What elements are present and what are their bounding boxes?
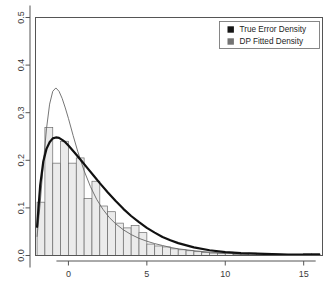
histogram-bar — [76, 158, 84, 256]
histogram-bar — [139, 233, 147, 256]
y-axis-tick-label: 0.2 — [16, 154, 26, 167]
histogram-bar — [170, 249, 178, 256]
histogram-bar — [155, 246, 163, 256]
legend-swatch-icon — [228, 26, 234, 32]
y-axis-tick-label: 0.0 — [16, 249, 26, 262]
x-axis-tick-label: 10 — [220, 269, 230, 279]
histogram-bar — [163, 247, 171, 256]
histogram-bar — [84, 198, 92, 255]
legend-item-label: DP Fitted Density — [240, 37, 304, 46]
x-axis: 051015 — [56, 261, 315, 279]
chart-legend: True Error DensityDP Fitted Density — [220, 22, 320, 49]
histogram-bar — [186, 251, 194, 256]
y-axis-tick-label: 0.3 — [16, 106, 26, 119]
histogram-bar — [115, 223, 123, 255]
histogram-bar — [53, 163, 61, 255]
histogram-bar — [194, 252, 202, 256]
x-axis-tick-label: 0 — [66, 269, 71, 279]
histogram-bar — [61, 141, 69, 255]
y-axis: 0.00.10.20.30.40.5 — [16, 6, 30, 268]
histogram-bar — [147, 244, 155, 255]
histogram-bar — [68, 163, 76, 255]
histogram-bar — [45, 127, 53, 255]
y-axis-tick-label: 0.1 — [16, 202, 26, 215]
x-axis-tick-label: 15 — [299, 269, 309, 279]
legend-item-label: True Error Density — [240, 25, 307, 34]
y-axis-tick-label: 0.5 — [16, 11, 26, 24]
density-histogram-plot: 051015 0.00.10.20.30.40.5 True Error Den… — [0, 0, 333, 305]
histogram-bar — [178, 250, 186, 256]
histogram-bars — [37, 127, 319, 255]
histogram-bar — [108, 212, 116, 256]
y-axis-tick-label: 0.4 — [16, 59, 26, 72]
histogram-bar — [131, 226, 139, 256]
chart-figure: 051015 0.00.10.20.30.40.5 True Error Den… — [0, 0, 333, 305]
x-axis-tick-label: 5 — [144, 269, 149, 279]
legend-swatch-icon — [228, 38, 234, 44]
